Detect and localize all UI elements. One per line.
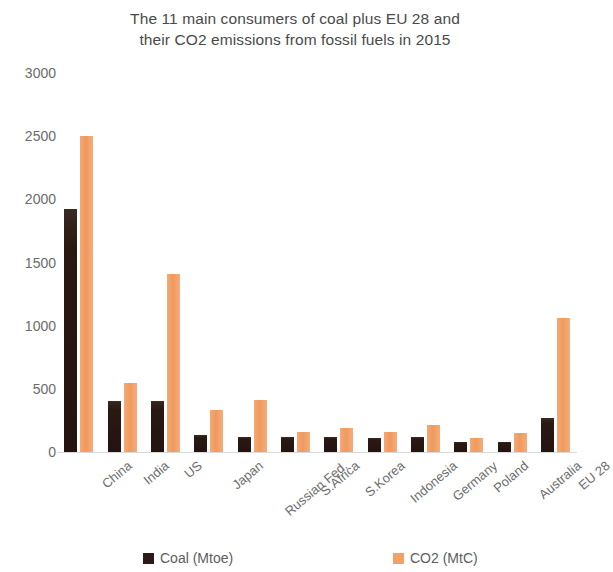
legend-item-co2: CO2 (MtC) xyxy=(393,550,478,566)
legend-swatch-coal-icon xyxy=(143,553,154,564)
bar-coal xyxy=(541,418,554,452)
plot-area xyxy=(57,73,577,452)
bar-group xyxy=(281,73,310,452)
bar-co2 xyxy=(167,274,180,452)
bar-coal xyxy=(411,437,424,452)
bar-coal xyxy=(238,437,251,452)
chart-title-line-2: their CO2 emissions from fossil fuels in… xyxy=(60,29,530,50)
bar-group xyxy=(108,73,137,452)
bar-coal xyxy=(64,209,77,452)
y-axis-tick-label: 3000 xyxy=(4,65,56,81)
chart-title-line-1: The 11 main consumers of coal plus EU 28… xyxy=(60,8,530,29)
bar-co2 xyxy=(254,400,267,452)
bar-co2 xyxy=(340,428,353,452)
bar-coal xyxy=(281,437,294,452)
bar-co2 xyxy=(297,432,310,452)
x-axis-tick-label: China xyxy=(99,458,135,491)
legend-swatch-co2-icon xyxy=(393,553,404,564)
bar-coal xyxy=(151,401,164,452)
bar-co2 xyxy=(427,425,440,452)
bar-co2 xyxy=(514,433,527,452)
bar-group xyxy=(151,73,180,452)
x-axis-tick-label: US xyxy=(182,458,205,481)
x-axis-tick-label: S.Korea xyxy=(362,458,408,500)
bar-group xyxy=(541,73,570,452)
bar-group xyxy=(368,73,397,452)
bar-co2 xyxy=(557,318,570,452)
x-axis-tick-label: Poland xyxy=(490,458,531,496)
bar-co2 xyxy=(384,432,397,452)
bar-coal xyxy=(108,401,121,452)
y-axis-tick-label: 2500 xyxy=(4,128,56,144)
bar-coal xyxy=(454,442,467,452)
bar-coal xyxy=(194,435,207,452)
legend-item-coal: Coal (Mtoe) xyxy=(143,550,233,566)
chart-legend: Coal (Mtoe) CO2 (MtC) xyxy=(0,550,583,572)
bar-group xyxy=(498,73,527,452)
bar-coal xyxy=(498,442,511,452)
bar-co2 xyxy=(470,438,483,452)
bar-group xyxy=(454,73,483,452)
bar-group xyxy=(194,73,223,452)
legend-label-co2: CO2 (MtC) xyxy=(410,550,478,566)
x-axis-tick-label: Indonesia xyxy=(407,458,460,506)
y-axis-tick-label: 2000 xyxy=(4,191,56,207)
x-axis-tick-label: EU 28 xyxy=(576,458,613,493)
bar-co2 xyxy=(80,136,93,452)
bar-coal xyxy=(324,437,337,452)
chart-title: The 11 main consumers of coal plus EU 28… xyxy=(60,8,530,50)
bar-co2 xyxy=(124,383,137,452)
bar-group xyxy=(64,73,93,452)
y-axis-tick-label: 0 xyxy=(4,444,56,460)
bar-group xyxy=(238,73,267,452)
x-axis-tick-label: Japan xyxy=(229,458,266,492)
y-axis-tick-label: 1500 xyxy=(4,255,56,271)
bar-coal xyxy=(368,438,381,452)
y-axis-tick-label: 1000 xyxy=(4,318,56,334)
legend-label-coal: Coal (Mtoe) xyxy=(160,550,233,566)
x-axis-line xyxy=(57,452,577,453)
bar-group xyxy=(324,73,353,452)
bar-co2 xyxy=(210,410,223,452)
x-axis-tick-label: India xyxy=(141,458,172,488)
y-axis-tick-label: 500 xyxy=(4,381,56,397)
bar-group xyxy=(411,73,440,452)
